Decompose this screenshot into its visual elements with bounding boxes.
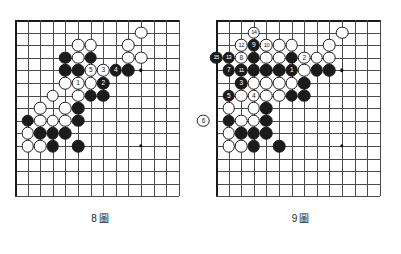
board-gridline-vertical bbox=[367, 20, 368, 196]
go-stone-move-14: 14 bbox=[248, 26, 261, 39]
go-stone-black bbox=[273, 64, 286, 77]
go-stone-black bbox=[248, 127, 261, 140]
go-diagram-8: 534128圖 bbox=[0, 0, 200, 254]
go-stone-white bbox=[273, 39, 286, 52]
go-stone-move-number: 9 bbox=[252, 42, 255, 49]
go-stone-black bbox=[248, 52, 261, 65]
board-gridline-horizontal bbox=[216, 196, 380, 197]
go-stone-white bbox=[285, 77, 298, 90]
board-gridline-vertical bbox=[342, 20, 343, 196]
go-stone-white bbox=[122, 39, 135, 52]
go-stone-white bbox=[285, 39, 298, 52]
board-gridline-vertical bbox=[141, 20, 142, 196]
go-stone-white bbox=[47, 115, 60, 128]
go-stone-white bbox=[260, 77, 273, 90]
go-stone-black bbox=[97, 89, 110, 102]
go-stone-move-number: 4 bbox=[114, 67, 117, 74]
go-stone-move-1: 1 bbox=[72, 77, 85, 90]
go-stone-white bbox=[21, 140, 34, 153]
go-stone-white bbox=[122, 52, 135, 65]
go-stone-black bbox=[72, 140, 85, 153]
go-stone-move-number: 2 bbox=[303, 55, 306, 62]
diagram-caption-word: 圖 bbox=[99, 213, 109, 224]
go-stone-black bbox=[260, 127, 273, 140]
board-gridline-vertical bbox=[154, 20, 155, 196]
go-stone-black bbox=[72, 115, 85, 128]
go-stone-white bbox=[21, 127, 34, 140]
go-stone-move-number: 6 bbox=[202, 118, 205, 125]
go-stone-black bbox=[59, 52, 72, 65]
go-stone-white bbox=[260, 52, 273, 65]
go-stone-white bbox=[273, 77, 286, 90]
go-stone-white bbox=[273, 89, 286, 102]
board-gridline-vertical bbox=[380, 20, 381, 196]
go-stone-white bbox=[59, 77, 72, 90]
go-stone-white bbox=[222, 102, 235, 115]
go-stone-move-5: 5 bbox=[84, 64, 97, 77]
go-stone-move-13: 13 bbox=[222, 52, 235, 65]
go-stone-black bbox=[47, 140, 60, 153]
go-stone-black bbox=[311, 64, 324, 77]
go-stone-move-2: 2 bbox=[97, 77, 110, 90]
go-stone-move-2: 2 bbox=[298, 52, 311, 65]
board-gridline-vertical bbox=[304, 20, 305, 196]
go-stone-black bbox=[248, 140, 261, 153]
go-stone-white bbox=[34, 140, 47, 153]
go-stone-white bbox=[84, 77, 97, 90]
go-stone-white bbox=[311, 52, 324, 65]
go-stone-black bbox=[84, 52, 97, 65]
go-stone-move-number: 12 bbox=[239, 42, 244, 48]
go-stone-move-number: 14 bbox=[251, 30, 256, 36]
go-stone-white bbox=[273, 52, 286, 65]
go-stone-black bbox=[323, 64, 336, 77]
board-gridline-horizontal bbox=[15, 196, 179, 197]
board-gridline-vertical bbox=[166, 20, 167, 196]
go-stone-move-9: 9 bbox=[248, 39, 261, 52]
go-stone-move-number: 15 bbox=[213, 55, 218, 61]
go-stone-white bbox=[72, 39, 85, 52]
board-gridline-vertical bbox=[317, 20, 318, 196]
go-stone-black bbox=[285, 89, 298, 102]
go-stone-move-1: 1 bbox=[285, 64, 298, 77]
board-gridline-vertical bbox=[103, 20, 104, 196]
board-gridline-vertical bbox=[179, 20, 180, 196]
go-stone-white bbox=[59, 115, 72, 128]
go-stone-move-4: 4 bbox=[110, 64, 123, 77]
go-stone-white bbox=[222, 140, 235, 153]
go-stone-black bbox=[34, 127, 47, 140]
go-stone-black bbox=[59, 127, 72, 140]
go-stone-white bbox=[260, 89, 273, 102]
go-stone-white bbox=[34, 115, 47, 128]
go-stone-white bbox=[235, 140, 248, 153]
go-stone-move-number: 5 bbox=[89, 67, 92, 74]
board-star-point bbox=[139, 69, 142, 72]
go-stone-white bbox=[135, 52, 148, 65]
go-stone-move-number: 7 bbox=[227, 67, 230, 74]
go-stone-move-3: 3 bbox=[97, 64, 110, 77]
go-stone-black bbox=[72, 64, 85, 77]
go-stone-move-number: 3 bbox=[102, 67, 105, 74]
go-stone-move-15: 15 bbox=[210, 52, 223, 65]
go-stone-white bbox=[72, 89, 85, 102]
go-stone-black bbox=[248, 64, 261, 77]
diagram-caption-number: 8 bbox=[91, 213, 97, 224]
go-stone-black bbox=[59, 64, 72, 77]
board-gridline-vertical bbox=[28, 20, 29, 196]
go-stone-move-10: 10 bbox=[260, 39, 273, 52]
go-stone-white bbox=[323, 39, 336, 52]
go-stone-white bbox=[135, 26, 148, 39]
go-stone-black bbox=[298, 77, 311, 90]
go-stone-white bbox=[323, 52, 336, 65]
board-star-point bbox=[139, 144, 142, 147]
go-stone-white bbox=[235, 89, 248, 102]
go-stone-black bbox=[72, 102, 85, 115]
diagram-caption: 8圖 bbox=[0, 210, 200, 225]
go-stone-white bbox=[34, 102, 47, 115]
go-stone-move-3: 3 bbox=[235, 77, 248, 90]
go-stone-black bbox=[260, 102, 273, 115]
diagram-caption-number: 9 bbox=[292, 213, 298, 224]
go-stone-white bbox=[336, 26, 349, 39]
go-stone-move-11: 11 bbox=[235, 64, 248, 77]
go-stone-black bbox=[260, 64, 273, 77]
go-stone-move-7: 7 bbox=[222, 64, 235, 77]
